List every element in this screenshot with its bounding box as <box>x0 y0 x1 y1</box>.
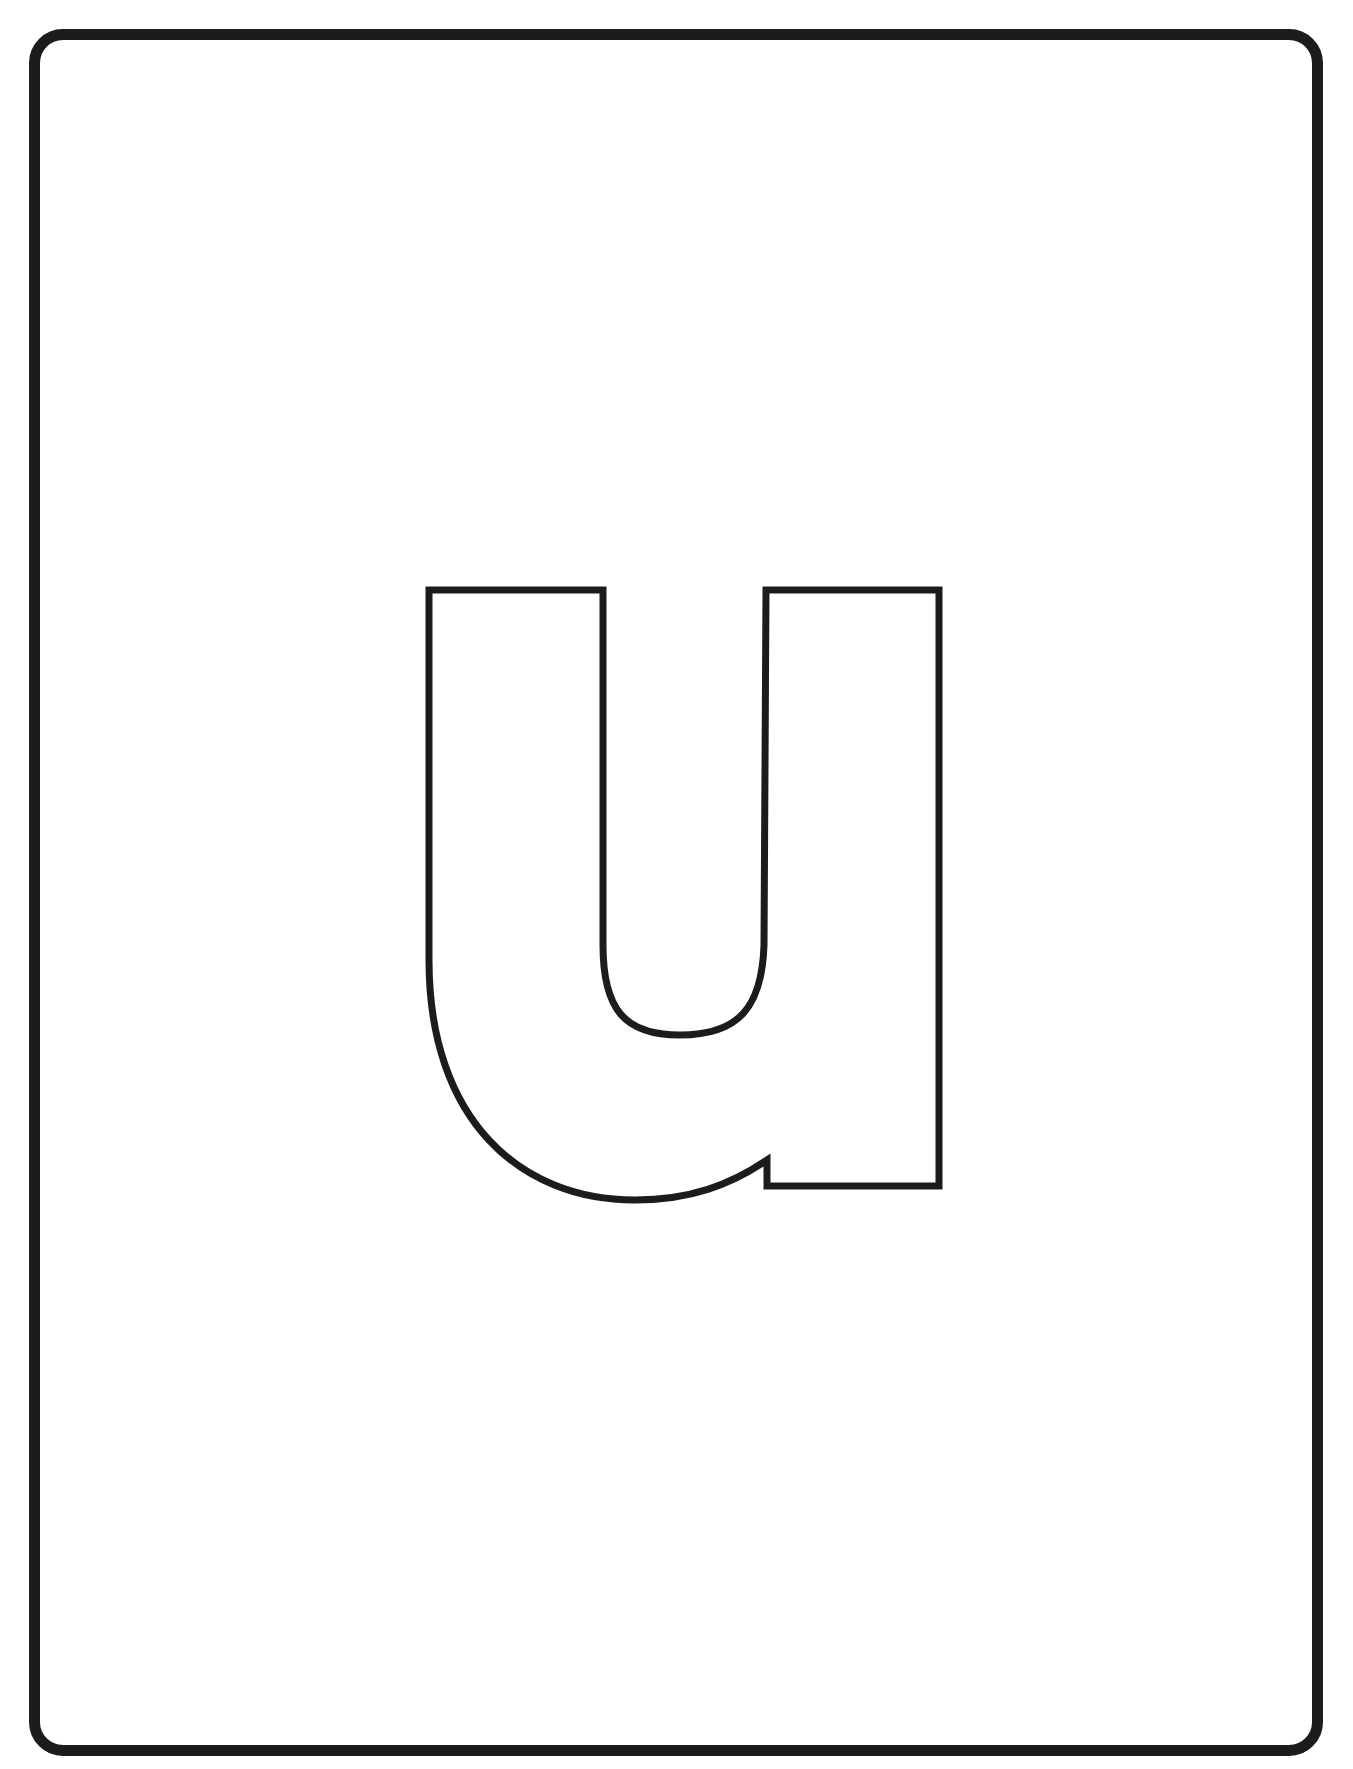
letter-u-outline <box>0 0 1353 1769</box>
coloring-page: u <box>0 0 1353 1769</box>
